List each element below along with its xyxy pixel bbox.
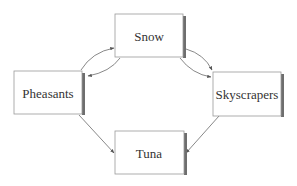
edge-pheasants-to-snow xyxy=(81,48,114,70)
node-tuna: Tuna xyxy=(115,131,187,175)
node-label-snow: Snow xyxy=(134,29,164,44)
edge-pheasants-to-tuna xyxy=(79,115,114,153)
diagram-canvas: Snow Pheasants Skyscrapers Tuna xyxy=(0,0,297,186)
node-pheasants: Pheasants xyxy=(14,71,85,115)
node-label-pheasants: Pheasants xyxy=(22,86,73,101)
node-shadow xyxy=(183,16,186,58)
node-snow: Snow xyxy=(115,14,186,58)
node-shadow xyxy=(281,74,284,117)
edge-snow-to-skyscrapers-upper xyxy=(186,49,212,70)
edge-snow-to-pheasants xyxy=(88,58,120,76)
node-label-tuna: Tuna xyxy=(136,146,162,161)
edge-skyscrapers-to-tuna xyxy=(186,116,219,153)
node-shadow xyxy=(82,73,85,115)
node-skyscrapers: Skyscrapers xyxy=(213,72,284,117)
edge-snow-to-skyscrapers-lower xyxy=(180,58,211,77)
node-shadow xyxy=(184,133,187,175)
node-label-skyscrapers: Skyscrapers xyxy=(216,87,279,102)
